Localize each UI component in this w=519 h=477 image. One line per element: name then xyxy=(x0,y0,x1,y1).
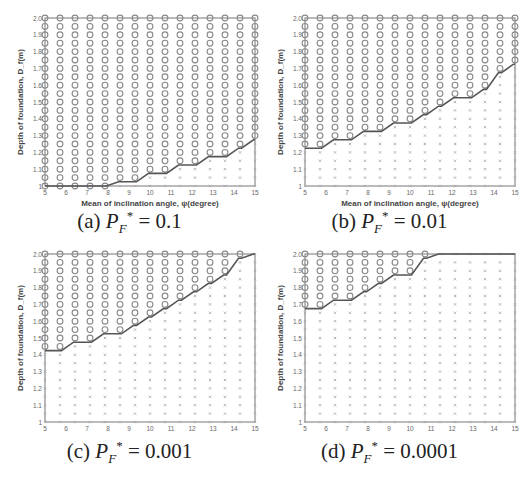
feasible-marker xyxy=(192,24,198,30)
feasible-marker xyxy=(102,40,108,46)
infeasible-marker xyxy=(439,379,441,381)
infeasible-marker xyxy=(484,143,486,145)
infeasible-marker xyxy=(394,126,396,128)
infeasible-marker xyxy=(424,176,426,178)
feasible-marker xyxy=(117,141,123,147)
infeasible-marker xyxy=(424,286,426,288)
infeasible-marker xyxy=(379,412,381,414)
feasible-marker xyxy=(317,276,323,282)
infeasible-marker xyxy=(484,345,486,347)
infeasible-marker xyxy=(364,134,366,136)
infeasible-marker xyxy=(319,328,321,330)
feasible-marker xyxy=(72,57,78,63)
x-tick-label: 6 xyxy=(64,425,68,432)
feasible-marker xyxy=(332,260,338,266)
infeasible-marker xyxy=(224,387,226,389)
feasible-marker xyxy=(362,91,368,97)
infeasible-marker xyxy=(454,345,456,347)
infeasible-marker xyxy=(364,379,366,381)
feasible-marker xyxy=(87,124,93,130)
infeasible-marker xyxy=(364,404,366,406)
feasible-marker xyxy=(162,150,168,156)
infeasible-marker xyxy=(379,396,381,398)
infeasible-marker xyxy=(134,404,136,406)
infeasible-marker xyxy=(239,160,241,162)
infeasible-marker xyxy=(409,295,411,297)
feasible-marker xyxy=(422,99,428,105)
feasible-marker xyxy=(132,32,138,38)
infeasible-marker xyxy=(364,176,366,178)
infeasible-marker xyxy=(484,354,486,356)
infeasible-marker xyxy=(499,270,501,272)
feasible-marker xyxy=(72,133,78,139)
feasible-marker xyxy=(467,82,473,88)
feasible-marker xyxy=(147,158,153,164)
y-tick-label: 1.2 xyxy=(33,385,42,392)
feasible-marker xyxy=(497,57,503,63)
feasible-marker xyxy=(57,108,63,114)
feasible-marker xyxy=(222,40,228,46)
x-tick-label: 12 xyxy=(448,189,456,196)
feasible-marker xyxy=(237,40,243,46)
feasible-marker xyxy=(222,74,228,80)
infeasible-marker xyxy=(484,286,486,288)
feasible-marker xyxy=(57,32,63,38)
feasible-marker xyxy=(87,74,93,80)
feasible-marker xyxy=(392,66,398,72)
feasible-marker xyxy=(317,66,323,72)
infeasible-marker xyxy=(439,160,441,162)
infeasible-marker xyxy=(409,387,411,389)
feasible-marker xyxy=(452,82,458,88)
feasible-marker xyxy=(222,108,228,114)
infeasible-marker xyxy=(439,143,441,145)
infeasible-marker xyxy=(484,92,486,94)
infeasible-marker xyxy=(194,303,196,305)
feasible-marker xyxy=(377,91,383,97)
feasible-marker xyxy=(377,24,383,30)
feasible-marker xyxy=(87,310,93,316)
x-tick-label: 6 xyxy=(324,189,328,196)
feasible-marker xyxy=(362,66,368,72)
infeasible-marker xyxy=(89,396,91,398)
feasible-marker xyxy=(362,108,368,114)
feasible-marker xyxy=(147,276,153,282)
feasible-marker xyxy=(87,66,93,72)
infeasible-marker xyxy=(484,176,486,178)
feasible-marker xyxy=(132,66,138,72)
infeasible-marker xyxy=(239,312,241,314)
feasible-marker xyxy=(482,40,488,46)
feasible-marker xyxy=(332,32,338,38)
feasible-marker xyxy=(222,66,228,72)
infeasible-marker xyxy=(469,412,471,414)
infeasible-marker xyxy=(379,160,381,162)
feasible-marker xyxy=(147,57,153,63)
feasible-marker xyxy=(467,49,473,55)
x-tick-label: 13 xyxy=(209,425,217,432)
infeasible-marker xyxy=(454,109,456,111)
feasible-marker xyxy=(467,57,473,63)
infeasible-marker xyxy=(194,168,196,170)
infeasible-marker xyxy=(179,176,181,178)
panel-c: 11.11.21.31.41.51.61.71.81.92.0567891011… xyxy=(0,240,259,477)
feasible-marker xyxy=(222,91,228,97)
feasible-marker xyxy=(102,108,108,114)
infeasible-marker xyxy=(319,362,321,364)
infeasible-marker xyxy=(74,412,76,414)
feasible-marker xyxy=(392,91,398,97)
feasible-marker xyxy=(87,335,93,341)
feasible-marker xyxy=(87,175,93,181)
x-axis-label: Mean of inclination angle, ψ(degree) xyxy=(341,199,479,208)
infeasible-marker xyxy=(134,354,136,356)
feasible-marker xyxy=(102,24,108,30)
feasible-marker xyxy=(347,91,353,97)
feasible-marker xyxy=(177,293,183,299)
infeasible-marker xyxy=(499,345,501,347)
x-tick-label: 12 xyxy=(448,425,456,432)
infeasible-marker xyxy=(164,328,166,330)
y-tick-label: 1.6 xyxy=(293,318,302,325)
infeasible-marker xyxy=(484,151,486,153)
infeasible-marker xyxy=(179,370,181,372)
y-tick-label: 1 xyxy=(38,419,42,426)
infeasible-marker xyxy=(439,270,441,272)
feasible-marker xyxy=(162,32,168,38)
